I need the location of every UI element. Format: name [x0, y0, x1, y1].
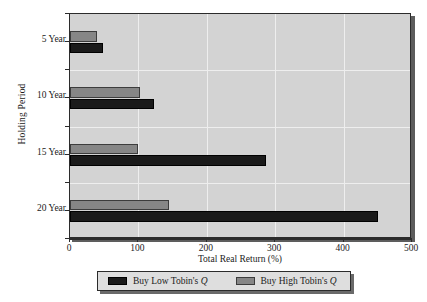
legend-box: Buy Low Tobin's Q Buy High Tobin's Q: [97, 271, 351, 291]
y-axis-tick-label: 20 Year: [20, 203, 66, 213]
x-axis-tick: [411, 238, 412, 242]
gridline-vertical: [344, 14, 345, 237]
y-axis-tick-major: [65, 41, 69, 42]
gridline-horizontal: [70, 183, 410, 184]
y-axis-tick: [65, 182, 69, 183]
bar-buy-high: [70, 31, 97, 42]
y-axis-tick-label: 10 Year: [20, 90, 66, 100]
legend-entry-buy-high: Buy High Tobin's Q: [236, 276, 337, 286]
x-axis-tick: [274, 238, 275, 242]
x-axis-tick-label: 500: [391, 243, 427, 253]
gray-swatch-icon: [236, 277, 255, 285]
gridline-horizontal: [70, 127, 410, 128]
gridline-horizontal: [70, 70, 410, 71]
y-axis-tick-major: [65, 210, 69, 211]
x-axis-tick: [343, 238, 344, 242]
y-axis-tick: [65, 13, 69, 14]
y-axis-tick: [65, 238, 69, 239]
y-axis-tick-major: [65, 97, 69, 98]
x-axis-tick: [137, 238, 138, 242]
y-axis-tick-labels: 5 Year10 Year15 Year20 Year: [16, 13, 66, 238]
y-axis-tick: [65, 69, 69, 70]
gridline-vertical: [275, 14, 276, 237]
bar-buy-low: [70, 99, 154, 110]
plot-area: [69, 13, 411, 238]
x-axis-tick-label: 100: [117, 243, 157, 253]
bar-buy-low: [70, 155, 266, 166]
x-axis-tick-label: 400: [323, 243, 363, 253]
x-axis-tick-label: 300: [254, 243, 294, 253]
y-axis-tick-label: 15 Year: [20, 147, 66, 157]
bar-buy-high: [70, 200, 169, 211]
x-axis-title: Total Real Return (%): [69, 254, 411, 264]
y-axis-tick: [65, 126, 69, 127]
legend-label-buy-high: Buy High Tobin's Q: [261, 276, 337, 286]
legend-entry-buy-low: Buy Low Tobin's Q: [108, 276, 208, 286]
y-axis-tick-label: 5 Year: [20, 34, 66, 44]
chart-figure: Holding Period 5 Year10 Year15 Year20 Ye…: [0, 0, 427, 302]
black-swatch-icon: [108, 277, 127, 285]
bar-buy-high: [70, 144, 138, 155]
x-axis-tick-label: 0: [49, 243, 89, 253]
bar-buy-low: [70, 211, 378, 222]
bar-buy-low: [70, 43, 103, 54]
x-axis-tick: [206, 238, 207, 242]
x-axis-tick: [69, 238, 70, 242]
legend-label-buy-low: Buy Low Tobin's Q: [133, 276, 208, 286]
y-axis-tick-major: [65, 154, 69, 155]
x-axis-line: [69, 238, 411, 240]
x-axis-tick-label: 200: [186, 243, 226, 253]
bar-buy-high: [70, 87, 140, 98]
gridline-vertical: [207, 14, 208, 237]
